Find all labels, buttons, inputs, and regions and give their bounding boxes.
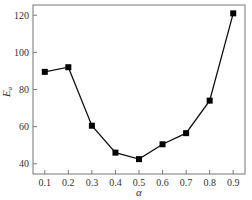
line-chart: 406080100120 0.10.20.30.40.50.60.70.80.9… <box>0 0 252 200</box>
square-marker <box>136 156 142 162</box>
x-tick-label: 0.6 <box>156 177 169 188</box>
y-axis: 406080100120 <box>14 10 37 170</box>
y-axis-label: Ea <box>0 86 14 98</box>
x-tick-label: 0.2 <box>62 177 75 188</box>
y-tick-label: 40 <box>19 158 29 169</box>
square-marker <box>230 10 236 16</box>
x-tick-label: 0.3 <box>86 177 99 188</box>
square-marker <box>207 98 213 104</box>
data-line <box>45 13 233 159</box>
y-tick-label: 60 <box>19 121 29 132</box>
x-tick-label: 0.7 <box>180 177 193 188</box>
x-tick-label: 0.4 <box>109 177 122 188</box>
square-marker <box>112 150 118 156</box>
square-marker <box>160 141 166 147</box>
y-tick-label: 100 <box>14 47 29 58</box>
square-marker <box>42 69 48 75</box>
data-markers <box>42 10 236 162</box>
x-tick-label: 0.9 <box>227 177 240 188</box>
y-tick-label: 120 <box>14 10 29 21</box>
y-tick-label: 80 <box>19 84 29 95</box>
square-marker <box>65 64 71 70</box>
x-tick-label: 0.8 <box>203 177 216 188</box>
x-axis-label: α <box>136 186 142 198</box>
square-marker <box>183 130 189 136</box>
square-marker <box>89 123 95 129</box>
x-tick-label: 0.1 <box>39 177 52 188</box>
